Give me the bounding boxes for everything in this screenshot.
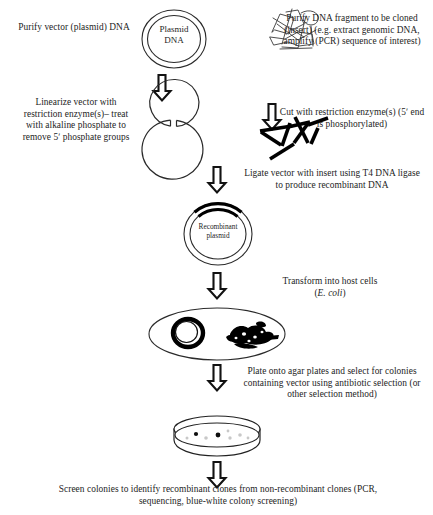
cloning-workflow-diagram: Purify vector (plasmid) DNA Plasmid DNA bbox=[0, 0, 433, 515]
petri-dish-figure bbox=[172, 413, 262, 459]
step-label-purify-insert: Purify DNA fragment to be cloned (insert… bbox=[276, 13, 428, 48]
step-label-plate-agar-select: Plate onto agar plates and select for co… bbox=[236, 366, 428, 401]
transform-paren-close: ) bbox=[342, 288, 345, 298]
arrow-down-to-ligate bbox=[207, 166, 227, 194]
plasmid-dna-figure: Plasmid DNA bbox=[140, 8, 208, 70]
recombinant-label-line2: plasmid bbox=[206, 231, 229, 240]
host-cell-figure bbox=[148, 306, 286, 362]
plasmid-label-line2: DNA bbox=[164, 35, 184, 45]
arrow-down-to-plate bbox=[207, 364, 227, 392]
recombinant-plasmid-figure: Recombinant plasmid bbox=[182, 201, 254, 267]
step-label-screen-colonies: Screen colonies to identify recombinant … bbox=[36, 484, 400, 507]
recombinant-label-line1: Recombinant bbox=[199, 222, 238, 231]
plasmid-label-line1: Plasmid bbox=[159, 24, 188, 34]
transform-line1: Transform into host cells bbox=[283, 276, 378, 286]
linearized-vector-figure bbox=[140, 118, 206, 182]
step-label-linearize-vector: Linearize vector with restriction enzyme… bbox=[16, 97, 136, 143]
transform-organism: E. coli bbox=[318, 288, 343, 298]
step-label-transform-host-cells: Transform into host cells (E. coli) bbox=[250, 276, 410, 299]
step-label-purify-vector: Purify vector (plasmid) DNA bbox=[18, 22, 130, 34]
step-label-ligate-vector-insert: Ligate vector with insert using T4 DNA l… bbox=[244, 168, 420, 191]
cut-dna-fragments-figure bbox=[258, 113, 342, 165]
arrow-down-to-transform bbox=[207, 272, 227, 300]
